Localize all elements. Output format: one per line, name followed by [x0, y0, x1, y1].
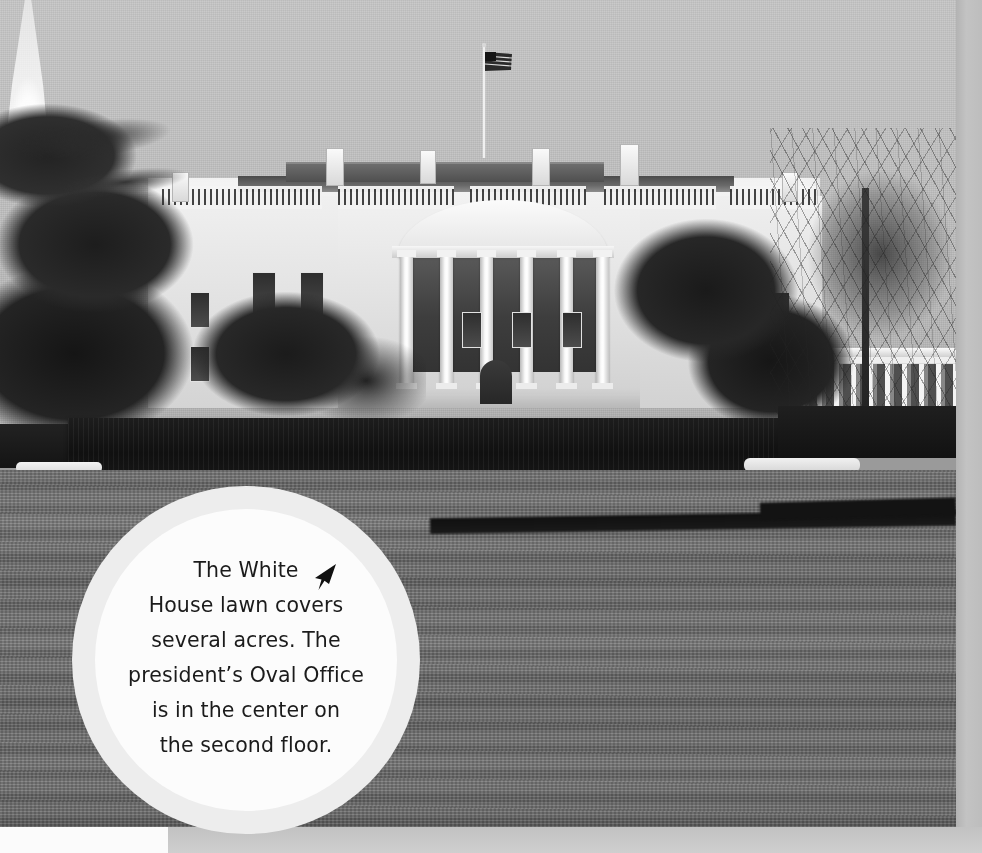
portico-window [562, 312, 582, 348]
portico-window [512, 312, 532, 348]
portico-column [440, 256, 453, 384]
tree-bare-branches [770, 128, 956, 428]
white-house-photograph: The White House lawn covers several acre… [0, 0, 956, 827]
page-canvas: The White House lawn covers several acre… [0, 0, 982, 853]
caption-text-block: The White House lawn covers several acre… [103, 553, 389, 767]
caption-line-6: the second floor. [103, 728, 389, 763]
chimney [620, 144, 639, 186]
hedge-right [778, 406, 956, 458]
tree-mid-left [176, 240, 426, 430]
caption-callout-overflow [72, 827, 420, 847]
portico-window [462, 312, 482, 348]
caption-line-2: House lawn covers [103, 588, 389, 623]
chimney [420, 150, 436, 184]
ground-floor-archway [480, 360, 512, 404]
portico-recess-shadow [402, 248, 604, 372]
caption-line-3: several acres. The [103, 623, 389, 658]
roof-balustrade-2 [338, 186, 454, 209]
chimney [326, 148, 344, 186]
page-margin-right [956, 0, 982, 853]
caption-callout-bubble: The White House lawn covers several acre… [72, 486, 420, 827]
chimney [532, 148, 550, 186]
hedge-texture [68, 418, 780, 476]
caption-line-1: The White [103, 553, 389, 588]
caption-line-5: is in the center on [103, 693, 389, 728]
caption-line-4: president’s Oval Office [103, 658, 389, 693]
american-flag-icon [474, 40, 518, 158]
caption-callout-inner: The White House lawn covers several acre… [95, 509, 397, 811]
